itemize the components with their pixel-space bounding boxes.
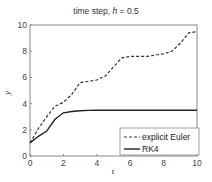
y-axis-label: y xyxy=(2,91,12,96)
y-tick-label: 6 xyxy=(22,72,27,82)
x-tick-label: 0 xyxy=(28,158,33,168)
y-tick-label: 4 xyxy=(22,99,27,109)
y-tick-label: 0 xyxy=(22,151,27,161)
x-tick-label: 2 xyxy=(61,158,66,168)
legend-euler-label: explicit Euler xyxy=(142,132,190,142)
legend-rk4-label: RK4 xyxy=(142,144,159,154)
x-tick-label: 4 xyxy=(94,158,99,168)
y-tick-label: 8 xyxy=(22,46,27,56)
y-tick-label: 2 xyxy=(22,125,27,135)
y-tick-label: 10 xyxy=(18,20,28,30)
x-tick-label: 8 xyxy=(161,158,166,168)
x-axis-label: t xyxy=(112,166,115,176)
legend: explicit Euler RK4 xyxy=(120,128,199,155)
line-chart: 02468100246810 t y explicit Euler RK4 xyxy=(0,0,212,182)
x-tick-label: 6 xyxy=(128,158,133,168)
x-tick-label: 10 xyxy=(192,158,202,168)
